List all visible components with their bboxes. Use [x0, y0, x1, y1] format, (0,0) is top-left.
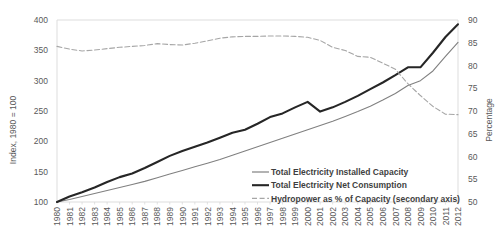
legend-item-label[interactable]: Total Electricity Installed Capacity [271, 167, 409, 177]
x-axis-tick-label: 1999 [290, 207, 300, 226]
x-axis-tick-label: 2003 [340, 207, 350, 226]
line-chart: 100150200250300350400 505560657075808590… [0, 0, 504, 245]
x-axis-tick-label: 1983 [90, 207, 100, 226]
x-axis-tick-label: 1994 [228, 207, 238, 226]
x-axis-tick-label: 1990 [178, 207, 188, 226]
x-axis-tick-label: 1980 [52, 207, 62, 226]
y-axis-right-tick-label: 50 [468, 197, 478, 207]
y-axis-right-title: Percentage [484, 98, 494, 142]
x-axis-tick-label: 1996 [253, 207, 263, 226]
x-axis-tick-label: 2011 [441, 207, 451, 226]
y-axis-right-tick-label: 90 [468, 15, 478, 25]
x-axis-tick-label: 1993 [215, 207, 225, 226]
x-axis-tick-label: 2002 [328, 207, 338, 226]
x-axis-tick-label: 2005 [365, 207, 375, 226]
x-axis-tick-label: 1987 [140, 207, 150, 226]
y-axis-right-tick-label: 85 [468, 38, 478, 48]
x-axis-tick-label: 2008 [403, 207, 413, 226]
x-axis-tick-label: 1995 [240, 207, 250, 226]
y-axis-left-title: Index, 1980 = 100 [8, 96, 18, 165]
y-axis-left-tick-label: 350 [34, 45, 48, 55]
y-axis-left-tick-label: 400 [34, 15, 48, 25]
y-axis-left-tick-label: 200 [34, 136, 48, 146]
y-axis-left-tick-label: 300 [34, 76, 48, 86]
x-axis-tick-label: 1985 [115, 207, 125, 226]
legend-item-label[interactable]: Total Electricity Net Consumption [271, 180, 407, 190]
x-axis-tick-label: 1998 [278, 207, 288, 226]
y-axis-left-tick-label: 250 [34, 106, 48, 116]
x-axis-tick-label: 2012 [453, 207, 463, 226]
y-axis-right-tick-label: 55 [468, 174, 478, 184]
x-axis-tick-label: 1986 [127, 207, 137, 226]
x-axis-tick-label: 1981 [65, 207, 75, 226]
x-axis-tick-label: 1982 [77, 207, 87, 226]
y-axis-right-tick-label: 75 [468, 83, 478, 93]
y-axis-left-tick-label: 100 [34, 197, 48, 207]
y-axis-right-tick-label: 60 [468, 152, 478, 162]
x-axis-tick-label: 1997 [265, 207, 275, 226]
x-axis-tick-label: 2010 [428, 207, 438, 226]
x-axis-tick-label: 1991 [190, 207, 200, 226]
x-axis-tick-label: 1992 [203, 207, 213, 226]
y-axis-right-tick-label: 65 [468, 129, 478, 139]
x-axis-tick-label: 2001 [315, 207, 325, 226]
x-axis-tick-label: 2007 [391, 207, 401, 226]
x-axis-tick-label: 2006 [378, 207, 388, 226]
y-axis-right-tick-label: 80 [468, 61, 478, 71]
x-axis-tick-label: 2000 [303, 207, 313, 226]
chart-container: 100150200250300350400 505560657075808590… [0, 0, 504, 245]
legend-item-label[interactable]: Hydropower as % of Capacity (secondary a… [271, 194, 460, 204]
x-axis-tick-label: 1989 [165, 207, 175, 226]
y-axis-left-tick-label: 150 [34, 167, 48, 177]
x-axis-tick-label: 1988 [152, 207, 162, 226]
x-axis-tick-label: 2009 [416, 207, 426, 226]
x-axis-tick-label: 1984 [102, 207, 112, 226]
x-axis-tick-label: 2004 [353, 207, 363, 226]
y-axis-right-tick-label: 70 [468, 106, 478, 116]
